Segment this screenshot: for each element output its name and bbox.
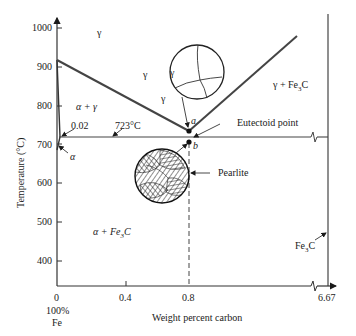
point-b-label: b <box>193 141 198 151</box>
fe3c-pointer <box>315 233 326 240</box>
grain-label-2: γ <box>170 68 174 78</box>
region-alpha-gamma: α + γ <box>76 102 97 112</box>
region-gamma: γ <box>97 28 101 38</box>
x-axis-label: Weight percent carbon <box>152 313 242 323</box>
y-tick-900: 900 <box>20 62 52 72</box>
region-gamma-fe3c: γ + Fe3C <box>273 80 308 93</box>
pearlite-microstructure <box>134 148 190 204</box>
y-axis-label: Temperature (°C) <box>15 138 26 208</box>
alpha-pointer <box>59 146 68 153</box>
x-tick-0.4: 0.4 <box>119 293 132 303</box>
y-tick-500: 500 <box>20 217 52 227</box>
pearlite-label: Pearlite <box>218 168 249 178</box>
eutectoid-pointer <box>194 124 220 137</box>
phase-diagram-graphic <box>0 0 356 336</box>
region-alpha: α <box>70 152 75 162</box>
x-axis <box>57 281 336 291</box>
origin-100pct: 100% <box>46 306 69 316</box>
solubility-label: 0.02 <box>71 121 89 131</box>
eutectoid-point-label: Eutectoid point <box>237 118 298 128</box>
y-tick-1000: 1000 <box>20 23 52 33</box>
region-alpha-fe3c: α + Fe3C <box>93 227 131 240</box>
x-tick-0: 0 <box>54 293 59 303</box>
point-a <box>186 128 191 133</box>
y-axis <box>57 18 62 286</box>
x-tick-0.8: 0.8 <box>182 293 195 303</box>
isotherm-label: 723°C <box>115 121 141 131</box>
y-tick-800: 800 <box>20 101 52 111</box>
point-b <box>186 139 191 144</box>
origin-fe: Fe <box>52 318 62 328</box>
grain-label-3: γ <box>161 94 165 104</box>
austenite-pointer <box>182 97 188 127</box>
region-fe3c: Fe3C <box>295 241 315 254</box>
x-tick-6.67: 6.67 <box>318 293 336 303</box>
grain-label-1: γ <box>143 70 147 80</box>
point-a-label: a <box>191 116 196 126</box>
austenite-microstructure <box>170 45 224 99</box>
pearlite-pointer-to-b <box>176 144 187 153</box>
y-tick-400: 400 <box>20 256 52 266</box>
